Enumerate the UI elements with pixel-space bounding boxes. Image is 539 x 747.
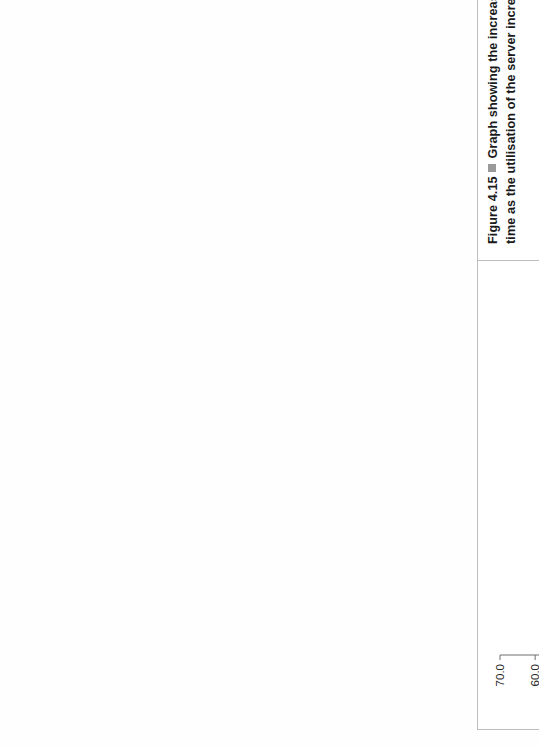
figure-4-15-chart: 00.10.20.30.40.50.60.70.80.91Utilisation… <box>478 259 539 729</box>
svg-text:60.0: 60.0 <box>529 664 539 686</box>
figure-4-15-number: Figure 4.15 <box>486 176 500 244</box>
chart-series-line <box>523 0 539 266</box>
svg-text:70.0: 70.0 <box>494 664 506 686</box>
figure-4-15-panel: 00.10.20.30.40.50.60.70.80.91Utilisation… <box>477 260 539 730</box>
caption-square-icon <box>488 164 496 172</box>
figure-4-15-block: 00.10.20.30.40.50.60.70.80.91Utilisation… <box>477 386 539 730</box>
figure-4-15-caption: Figure 4.15Graph showing the increase in… <box>485 0 521 244</box>
book-page: 11.051.11.151.21.251.31.351.4IAT (minute… <box>0 0 539 747</box>
